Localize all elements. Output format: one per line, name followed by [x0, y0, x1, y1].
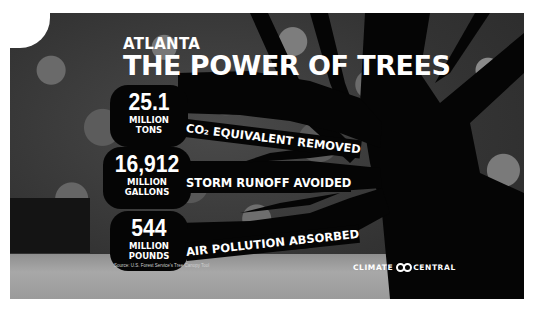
stat-badge-storm: 16,912 MILLION GALLONS: [103, 147, 191, 209]
stat-unit: GALLONS: [103, 187, 191, 197]
climate-central-logo: CLIMATE CENTRAL: [353, 263, 456, 272]
stat-value: 25.1: [115, 89, 184, 115]
stat-value: 544: [115, 215, 184, 241]
stat-badge-air: 544 MILLION POUNDS: [110, 211, 188, 271]
page-title: THE POWER OF TREES: [123, 52, 450, 80]
brand-left: CLIMATE: [353, 263, 393, 272]
stat-unit: TONS: [110, 125, 188, 135]
source-credit: Source: U.S. Forest Service's Tree Canop…: [114, 263, 209, 268]
linked-rings-icon: [396, 263, 410, 272]
stat-badge-co2: 25.1 MILLION TONS: [110, 85, 188, 147]
stat-label-storm: STORM RUNOFF AVOIDED: [186, 174, 351, 192]
title-block: ATLANTA THE POWER OF TREES: [123, 36, 450, 80]
brand-right: CENTRAL: [413, 263, 456, 272]
infographic: ATLANTA THE POWER OF TREES 25.1 MILLION …: [10, 13, 524, 299]
stat-unit: MILLION: [110, 241, 188, 251]
stat-unit: POUNDS: [110, 251, 188, 261]
stat-value: 16,912: [108, 151, 185, 177]
stat-unit: MILLION: [103, 177, 191, 187]
stat-unit: MILLION: [110, 115, 188, 125]
stat-label: STORM RUNOFF AVOIDED: [186, 176, 351, 190]
